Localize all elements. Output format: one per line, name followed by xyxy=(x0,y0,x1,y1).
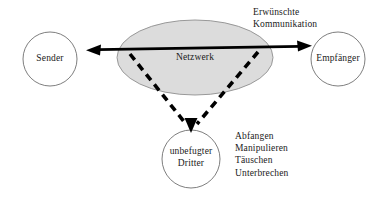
netzwerk-ellipse[interactable] xyxy=(117,20,273,95)
empfaenger-circle[interactable] xyxy=(311,32,365,86)
attack-list-item-0: Abfangen xyxy=(235,130,289,142)
desired-communication-line2: Kommunikation xyxy=(253,18,317,30)
diagram-graphics xyxy=(0,0,388,198)
dritter-circle[interactable] xyxy=(162,130,220,188)
diagram-canvas: Sender Netzwerk Empfänger unbefugter Dri… xyxy=(0,0,388,198)
arrowhead-right xyxy=(297,41,312,52)
attack-list-item-1: Manipulieren xyxy=(235,142,289,154)
attack-list-item-3: Unterbrechen xyxy=(235,167,289,179)
arrowhead-left xyxy=(86,45,101,56)
attack-list-item-2: Täuschen xyxy=(235,154,289,166)
desired-communication-label: Erwünschte Kommunikation xyxy=(253,6,317,30)
desired-communication-line1: Erwünschte xyxy=(253,6,317,18)
sender-circle[interactable] xyxy=(23,32,77,86)
attack-list: Abfangen Manipulieren Täuschen Unterbrec… xyxy=(235,130,289,179)
